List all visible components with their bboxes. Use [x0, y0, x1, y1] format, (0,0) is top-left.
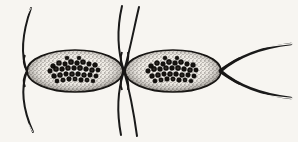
left-segment	[27, 50, 123, 92]
figure-container: Two-segmented stippled organism with rad…	[0, 0, 298, 142]
organism-illustration	[0, 0, 298, 142]
right-segment	[125, 50, 221, 92]
